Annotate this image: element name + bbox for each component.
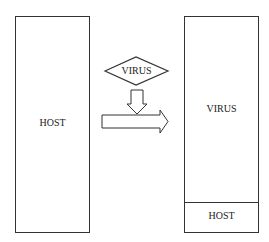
- host-section-label: HOST: [185, 210, 258, 221]
- virus-diamond-label: VIRUS: [105, 65, 168, 76]
- section-divider: [185, 202, 258, 203]
- infected-box: VIRUS HOST: [184, 16, 259, 233]
- right-arrow-icon: [102, 110, 168, 133]
- down-arrow-icon: [127, 90, 147, 114]
- virus-section-label: VIRUS: [185, 103, 258, 114]
